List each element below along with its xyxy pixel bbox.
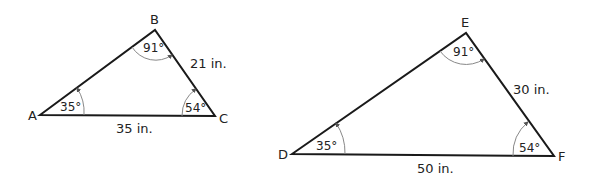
vertex-label-a: A [28, 108, 37, 123]
vertex-label-e: E [461, 15, 469, 30]
side-length-ac: 35 in. [116, 121, 153, 136]
angle-value-f: 54° [519, 141, 540, 155]
angle-value-c: 54° [185, 101, 206, 115]
angle-value-d: 35° [316, 139, 337, 153]
triangle-abc: A B C 35° 91° 54° 21 in. 35 in. [28, 12, 228, 136]
angle-value-a: 35° [60, 100, 81, 114]
similar-triangles-diagram: A B C 35° 91° 54° 21 in. 35 in. D E F 35… [0, 0, 591, 180]
vertex-label-b: B [150, 12, 159, 27]
vertex-label-d: D [278, 147, 288, 162]
side-length-df: 50 in. [417, 161, 454, 176]
vertex-label-f: F [558, 149, 565, 164]
angle-arc-d [336, 123, 345, 154]
side-length-bc: 21 in. [190, 56, 227, 71]
side-length-ef: 30 in. [513, 82, 550, 97]
angle-value-b: 91° [143, 41, 164, 55]
triangle-def: D E F 35° 91° 54° 30 in. 50 in. [278, 15, 565, 176]
vertex-label-c: C [219, 111, 228, 126]
angle-value-e: 91° [453, 45, 474, 59]
